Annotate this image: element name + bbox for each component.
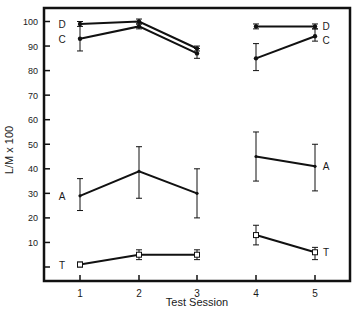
data-point [254,24,258,28]
series-line [256,36,315,58]
series-label-right-T: T [323,247,329,258]
y-tick-label: 10 [28,238,38,248]
x-tick-label: 1 [77,288,83,299]
chart: 10203040506070809010012345 DCATDCAT Test… [0,0,358,315]
data-point [78,36,82,40]
series-label-right-A: A [323,161,330,172]
data-point [254,155,257,158]
y-tick-label: 90 [28,42,38,52]
x-tick-label: 4 [253,288,259,299]
data-point [313,34,317,38]
series-label-left-A: A [59,191,66,202]
series-label-left-D: D [58,19,65,30]
y-tick-label: 100 [23,17,38,27]
x-tick-label: 5 [312,288,318,299]
series [77,19,318,267]
data-point [254,56,258,60]
data-point [195,192,198,195]
y-tick-label: 20 [28,213,38,223]
y-tick-label: 30 [28,189,38,199]
data-point [254,233,259,238]
y-axis-label: L/M x 100 [3,126,15,174]
data-point [78,194,81,197]
series-label-left-T: T [59,260,65,271]
data-point [195,252,200,257]
series-line [256,157,315,167]
series-A [77,132,318,218]
x-tick-label: 2 [136,288,142,299]
data-point [195,51,199,55]
series-label-right-D: D [322,21,329,32]
y-tick-label: 40 [28,164,38,174]
y-tick-label: 50 [28,140,38,150]
y-tick-label: 70 [28,91,38,101]
x-axis-label: Test Session [166,296,228,308]
series-line [256,235,315,252]
data-point [137,252,142,257]
series-T [77,225,318,267]
data-point [137,170,140,173]
y-tick-label: 80 [28,66,38,76]
series-D [77,19,318,51]
series-label-right-C: C [322,35,329,46]
axes: 10203040506070809010012345 [23,17,318,299]
data-point [313,24,317,28]
data-point [137,19,141,23]
data-point [137,24,141,28]
data-point [313,165,316,168]
data-point [313,250,318,255]
series-labels: DCATDCAT [58,19,329,271]
series-label-left-C: C [58,34,65,45]
data-point [78,262,83,267]
y-tick-label: 60 [28,115,38,125]
